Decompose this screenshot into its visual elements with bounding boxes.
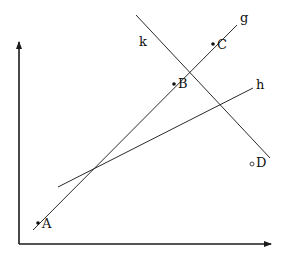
- point-C: [211, 42, 215, 46]
- line-h: [58, 88, 253, 187]
- point-label-D: D: [256, 155, 266, 170]
- lines: ghk: [33, 10, 270, 230]
- point-B: [172, 82, 176, 86]
- point-label-C: C: [217, 37, 227, 52]
- geometry-diagram: ghk ABCD: [0, 0, 287, 258]
- line-g: [33, 25, 237, 230]
- line-label-g: g: [240, 10, 248, 25]
- line-label-k: k: [139, 34, 147, 49]
- line-label-h: h: [256, 77, 265, 92]
- points: ABCD: [36, 37, 266, 231]
- point-label-B: B: [178, 76, 188, 91]
- line-k: [136, 15, 270, 158]
- point-A: [36, 221, 40, 225]
- point-D: [250, 162, 254, 166]
- point-label-A: A: [41, 216, 52, 231]
